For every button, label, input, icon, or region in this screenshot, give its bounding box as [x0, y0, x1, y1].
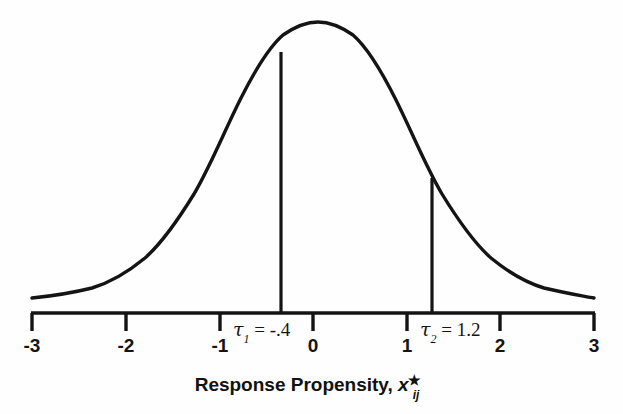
x-axis-title: Response Propensity, x★ij [0, 368, 623, 403]
x-axis-subscript-ij: ij [413, 388, 420, 402]
x-axis-superscript-star: ★ [408, 372, 421, 388]
tau1-value: -.4 [270, 319, 291, 340]
tau2-symbol: τ [420, 318, 431, 340]
x-tick-label-minus3: -3 [12, 336, 52, 355]
x-tick-label-zero: 0 [293, 336, 333, 355]
tau2-index: 2 [431, 332, 437, 346]
tau2-equals: = [441, 319, 452, 340]
x-tick-label-minus2: -2 [106, 336, 146, 355]
threshold-annotation-tau1: τ1 = -.4 [233, 320, 290, 347]
threshold-annotation-tau2: τ2 = 1.2 [420, 320, 480, 347]
x-tick-label-three: 3 [574, 336, 614, 355]
x-axis-ticks [32, 313, 594, 331]
tau1-index: 1 [244, 332, 250, 346]
tau1-equals: = [254, 319, 265, 340]
tau2-value: 1.2 [457, 319, 481, 340]
x-axis-title-text: Response Propensity, [195, 374, 393, 395]
x-tick-label-two: 2 [480, 336, 520, 355]
normal-curve-figure: -3 -2 -1 0 1 2 3 τ1 = -.4 τ2 = 1.2 Respo… [0, 0, 623, 414]
tau1-symbol: τ [233, 318, 244, 340]
normal-density-curve [32, 22, 594, 298]
